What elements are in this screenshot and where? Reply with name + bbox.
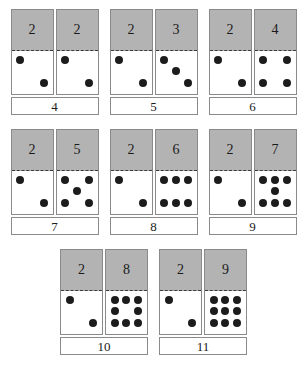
domino-card-right[interactable]: 2	[56, 9, 99, 95]
pip-dot	[188, 319, 196, 327]
addition-problem[interactable]: 2 8 10	[60, 249, 148, 355]
pip-empty	[238, 187, 246, 195]
pip-empty	[127, 199, 135, 207]
pip-grid	[64, 294, 99, 329]
sum-bar[interactable]: 7	[11, 217, 99, 235]
card-dot-panel	[160, 291, 201, 334]
pip-dot	[210, 319, 218, 327]
addition-problem[interactable]: 2 3 5	[110, 9, 198, 115]
domino-card-right[interactable]: 4	[254, 9, 297, 95]
card-dot-panel	[210, 171, 251, 214]
pip-empty	[259, 187, 267, 195]
pip-empty	[85, 67, 93, 75]
pip-empty	[16, 187, 24, 195]
pip-dot	[111, 307, 119, 315]
domino-card-right[interactable]: 7	[254, 129, 297, 215]
sum-bar[interactable]: 11	[159, 337, 247, 355]
pip-dot	[139, 79, 147, 87]
card-dot-panel	[57, 171, 98, 214]
domino-card-left[interactable]: 2	[159, 249, 202, 335]
card-numeral-panel: 8	[106, 250, 147, 291]
domino-card-right[interactable]: 3	[155, 9, 198, 95]
pip-dot	[115, 56, 123, 64]
addition-problem[interactable]: 2 6 8	[110, 129, 198, 235]
card-numeral-panel: 2	[57, 10, 98, 51]
domino-card-right[interactable]: 6	[155, 129, 198, 215]
card-numeral: 2	[29, 143, 36, 157]
sum-value: 6	[249, 100, 256, 113]
sum-bar[interactable]: 5	[110, 97, 198, 115]
pip-empty	[176, 296, 184, 304]
addition-problem[interactable]: 2 9 11	[159, 249, 247, 355]
pip-dot	[139, 199, 147, 207]
card-dot-panel	[111, 51, 152, 94]
sum-bar[interactable]: 9	[209, 217, 297, 235]
pip-dot	[61, 199, 69, 207]
pip-dot	[172, 67, 180, 75]
domino-card-pair: 2 4	[209, 9, 297, 95]
pip-empty	[40, 176, 48, 184]
pip-empty	[61, 187, 69, 195]
domino-card-right[interactable]: 8	[105, 249, 148, 335]
pip-empty	[160, 79, 168, 87]
pip-empty	[271, 56, 279, 64]
pip-empty	[40, 56, 48, 64]
pip-dot	[16, 176, 24, 184]
pip-grid	[159, 54, 194, 89]
pip-dot	[210, 296, 218, 304]
pip-dot	[172, 176, 180, 184]
pip-dot	[259, 79, 267, 87]
card-numeral-panel: 2	[12, 130, 53, 171]
card-numeral-panel: 2	[210, 130, 251, 171]
sum-value: 7	[51, 220, 58, 233]
addition-problem[interactable]: 2 2 4	[11, 9, 99, 115]
card-dot-panel	[210, 51, 251, 94]
pip-empty	[127, 187, 135, 195]
pip-empty	[77, 296, 85, 304]
sum-bar[interactable]: 10	[60, 337, 148, 355]
pip-empty	[165, 307, 173, 315]
domino-card-left[interactable]: 2	[11, 9, 54, 95]
pip-empty	[85, 187, 93, 195]
worksheet-sheet: 2 2 4	[0, 0, 307, 391]
pip-dot	[184, 176, 192, 184]
pip-empty	[115, 67, 123, 75]
pip-dot	[259, 56, 267, 64]
pip-dot	[61, 56, 69, 64]
pip-empty	[139, 67, 147, 75]
pip-empty	[172, 187, 180, 195]
domino-card-left[interactable]: 2	[110, 129, 153, 215]
sum-value: 8	[150, 220, 157, 233]
domino-card-left[interactable]: 2	[209, 9, 252, 95]
card-numeral-panel: 2	[61, 250, 102, 291]
pip-empty	[40, 67, 48, 75]
domino-card-left[interactable]: 2	[209, 129, 252, 215]
domino-card-right[interactable]: 5	[56, 129, 99, 215]
card-numeral-panel: 4	[255, 10, 296, 51]
sum-bar[interactable]: 8	[110, 217, 198, 235]
pip-empty	[188, 296, 196, 304]
pip-dot	[89, 319, 97, 327]
pip-empty	[73, 56, 81, 64]
addition-problem[interactable]: 2 4 6	[209, 9, 297, 115]
addition-problem[interactable]: 2 5 7	[11, 129, 99, 235]
card-dot-panel	[255, 51, 296, 94]
domino-card-right[interactable]: 9	[204, 249, 247, 335]
domino-card-left[interactable]: 2	[110, 9, 153, 95]
pip-empty	[16, 79, 24, 87]
card-numeral: 2	[227, 23, 234, 37]
pip-dot	[111, 296, 119, 304]
pip-dot	[134, 296, 142, 304]
domino-card-left[interactable]: 2	[60, 249, 103, 335]
pip-empty	[61, 67, 69, 75]
pip-dot	[271, 187, 279, 195]
sum-bar[interactable]: 4	[11, 97, 99, 115]
domino-card-left[interactable]: 2	[11, 129, 54, 215]
sum-bar[interactable]: 6	[209, 97, 297, 115]
pip-dot	[165, 296, 173, 304]
card-dot-panel	[255, 171, 296, 214]
addition-problem[interactable]: 2 7 9	[209, 129, 297, 235]
domino-card-pair: 2 5	[11, 129, 99, 215]
domino-card-pair: 2 6	[110, 129, 198, 215]
pip-dot	[233, 296, 241, 304]
